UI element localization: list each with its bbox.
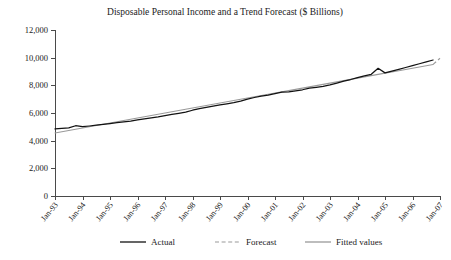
x-tick-label: Jan-95	[94, 201, 115, 224]
y-tick-label: 2,000	[29, 163, 48, 173]
x-tick-label: Jan-99	[204, 201, 225, 224]
legend-label-forecast: Forecast	[246, 237, 277, 247]
x-tick-label: Jan-96	[122, 201, 143, 224]
y-tick-label: 8,000	[29, 80, 48, 90]
x-axis: Jan-93Jan-94Jan-95Jan-96Jan-97Jan-98Jan-…	[39, 196, 445, 223]
series-line-actual	[55, 60, 433, 129]
y-axis-tick-labels: 02,0004,0006,0008,00010,00012,000	[25, 25, 48, 201]
chart-series-group	[55, 58, 440, 133]
y-tick-label: 12,000	[25, 25, 48, 35]
x-tick-label: Jan-04	[342, 201, 363, 224]
x-tick-label: Jan-98	[177, 201, 198, 224]
x-tick-label: Jan-06	[397, 201, 418, 224]
x-tick-label: Jan-07	[424, 201, 445, 224]
y-axis: 02,0004,0006,0008,00010,00012,000	[25, 25, 56, 201]
x-tick-label: Jan-05	[369, 201, 390, 224]
x-tick-label: Jan-94	[67, 201, 88, 224]
x-tick-label: Jan-02	[287, 201, 308, 224]
y-tick-label: 4,000	[29, 136, 48, 146]
y-axis-ticks	[51, 31, 55, 197]
series-line-forecast	[433, 58, 440, 64]
series-line-fitted-values	[55, 64, 433, 132]
legend-label-fitted-values: Fitted values	[336, 237, 383, 247]
y-tick-label: 10,000	[25, 53, 48, 63]
chart-title: Disposable Personal Income and a Trend F…	[107, 7, 343, 18]
chart-figure: Disposable Personal Income and a Trend F…	[0, 0, 451, 260]
x-axis-tick-labels: Jan-93Jan-94Jan-95Jan-96Jan-97Jan-98Jan-…	[39, 201, 445, 224]
y-tick-label: 0	[44, 191, 48, 201]
x-tick-label: Jan-00	[232, 201, 253, 224]
x-tick-label: Jan-97	[149, 201, 170, 224]
x-tick-label: Jan-03	[314, 201, 335, 224]
legend-label-actual: Actual	[151, 237, 175, 247]
y-tick-label: 6,000	[29, 108, 48, 118]
x-tick-label: Jan-93	[39, 201, 60, 224]
x-tick-label: Jan-01	[259, 201, 280, 224]
disposable-personal-income-line-chart: Disposable Personal Income and a Trend F…	[0, 0, 451, 260]
chart-legend: ActualForecastFitted values	[120, 237, 383, 247]
